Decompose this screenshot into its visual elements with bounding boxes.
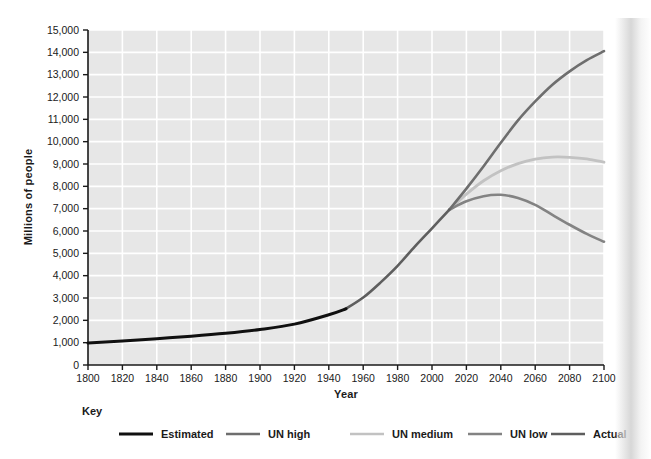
y-tick-label: 12,000	[47, 91, 79, 103]
y-tick-label: 4,000	[53, 269, 79, 281]
x-tick-label: 1940	[317, 372, 341, 384]
x-tick-label: 2100	[592, 372, 616, 384]
y-tick-label: 1,000	[53, 336, 79, 348]
x-tick-label: 1980	[386, 372, 410, 384]
legend-label-un-medium[interactable]: UN medium	[392, 428, 453, 440]
y-tick-label: 13,000	[47, 68, 79, 80]
legend-title: Key	[82, 405, 103, 417]
x-tick-label: 2020	[455, 372, 479, 384]
population-projection-figure: 01,0002,0003,0004,0005,0006,0007,0008,00…	[0, 0, 651, 459]
y-tick-label: 14,000	[47, 46, 79, 58]
y-axis-tick-labels: 01,0002,0003,0004,0005,0006,0007,0008,00…	[47, 24, 79, 371]
y-tick-label: 3,000	[53, 292, 79, 304]
x-tick-label: 2060	[524, 372, 548, 384]
y-tick-label: 8,000	[53, 180, 79, 192]
legend-label-un-high[interactable]: UN high	[268, 428, 310, 440]
x-tick-label: 1840	[145, 372, 169, 384]
legend-label-un-low[interactable]: UN low	[510, 428, 548, 440]
x-tick-label: 1860	[180, 372, 204, 384]
x-tick-label: 2080	[558, 372, 582, 384]
y-tick-label: 9,000	[53, 158, 79, 170]
y-tick-label: 6,000	[53, 225, 79, 237]
y-tick-label: 7,000	[53, 202, 79, 214]
y-tick-label: 5,000	[53, 247, 79, 259]
y-tick-label: 0	[73, 359, 79, 371]
y-axis-title: Millions of people	[22, 149, 34, 246]
y-tick-label: 2,000	[53, 314, 79, 326]
x-tick-label: 1900	[248, 372, 272, 384]
y-tick-label: 11,000	[48, 113, 79, 125]
x-tick-label: 1920	[283, 372, 307, 384]
legend: EstimatedUN highUN mediumUN lowActual	[119, 428, 627, 440]
x-tick-label: 1880	[214, 372, 238, 384]
legend-label-estimated[interactable]: Estimated	[161, 428, 214, 440]
x-tick-label: 1960	[352, 372, 376, 384]
y-tick-label: 10,000	[47, 135, 79, 147]
plot-area-background	[88, 30, 604, 365]
x-tick-label: 2040	[489, 372, 513, 384]
y-tick-label: 15,000	[47, 24, 79, 36]
x-axis-title: Year	[334, 388, 359, 400]
x-tick-label: 1800	[76, 372, 100, 384]
x-tick-label: 1820	[111, 372, 135, 384]
population-line-chart: 01,0002,0003,0004,0005,0006,0007,0008,00…	[0, 0, 651, 459]
x-axis-tick-labels: 1800182018401860188019001920194019601980…	[76, 372, 616, 384]
legend-label-actual[interactable]: Actual	[593, 428, 627, 440]
x-tick-label: 2000	[420, 372, 444, 384]
